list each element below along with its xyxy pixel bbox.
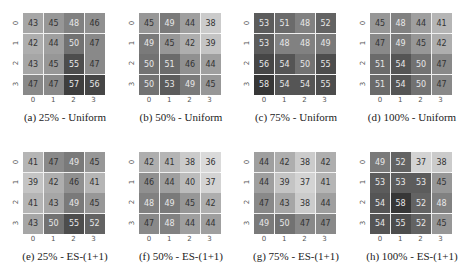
heatmap-grid: 42413836464440374849454247484444 [139, 152, 220, 233]
heatmap-cell: 49 [160, 13, 180, 33]
heatmap-cell: 44 [201, 54, 221, 74]
heatmap-cell: 47 [139, 214, 159, 234]
heatmap-cell: 58 [391, 193, 411, 213]
x-tick-label: 0 [370, 235, 390, 243]
heatmap-cell: 37 [411, 152, 431, 172]
heatmap-cell: 51 [370, 54, 390, 74]
heatmap-cell: 56 [254, 54, 274, 74]
x-tick-label: 1 [390, 96, 410, 104]
x-tick-label: 1 [274, 96, 294, 104]
y-tick-label: 0 [6, 19, 26, 27]
heatmap-cell: 42 [432, 34, 452, 54]
y-tick-label: 3 [6, 80, 26, 88]
heatmap-cell: 43 [44, 193, 64, 213]
heatmap-cell: 38 [295, 193, 315, 213]
heatmap-cell: 54 [275, 54, 295, 74]
x-tick-label: 3 [431, 235, 451, 243]
x-tick-label: 3 [84, 235, 104, 243]
y-tick-label: 2 [353, 198, 373, 206]
heatmap-cell: 44 [411, 13, 431, 33]
x-tick-label: 2 [179, 235, 199, 243]
heatmap-cell: 45 [44, 13, 64, 33]
heatmap-cell: 47 [85, 54, 105, 74]
heatmap-cell: 39 [23, 173, 43, 193]
heatmap-cell: 47 [370, 34, 390, 54]
heatmap-cell: 48 [275, 34, 295, 54]
heatmap-cell: 55 [316, 54, 336, 74]
heatmap-cell: 45 [432, 214, 452, 234]
y-tick-label: 0 [353, 19, 373, 27]
y-tick-label: 3 [122, 219, 142, 227]
heatmap-cell: 48 [432, 193, 452, 213]
heatmap-cell: 42 [180, 34, 200, 54]
heatmap-cell: 51 [370, 75, 390, 95]
heatmap-grid: 41474945394246414143494543505552 [23, 152, 104, 233]
heatmap-cell: 45 [370, 13, 390, 33]
heatmap-panel-c: 5351485253484849565450555854545501230123… [241, 13, 351, 148]
y-tick-label: 3 [122, 80, 142, 88]
heatmap-cell: 40 [180, 173, 200, 193]
x-tick-label: 0 [139, 235, 159, 243]
y-tick-label: 1 [122, 178, 142, 186]
heatmap-cell: 50 [44, 214, 64, 234]
y-tick-label: 1 [237, 178, 257, 186]
heatmap-cell: 57 [64, 75, 84, 95]
y-tick-label: 1 [6, 39, 26, 47]
heatmap-cell: 45 [44, 54, 64, 74]
heatmap-cell: 47 [316, 214, 336, 234]
subfigure-caption: (g) 75% - ES-(1+1) [241, 250, 351, 262]
heatmap-grid: 53514852534848495654505558545455 [254, 13, 335, 94]
subfigure-caption: (b) 50% - Uniform [126, 111, 236, 123]
heatmap-panel-e: 4147494539424641414349454350555201230123… [10, 152, 120, 279]
subfigure-caption: (c) 75% - Uniform [241, 111, 351, 123]
x-tick-label: 2 [410, 235, 430, 243]
heatmap-cell: 43 [23, 13, 43, 33]
heatmap-cell: 49 [254, 214, 274, 234]
heatmap-cell: 41 [316, 173, 336, 193]
y-tick-label: 3 [353, 80, 373, 88]
x-tick-label: 1 [390, 235, 410, 243]
heatmap-cell: 41 [23, 152, 43, 172]
heatmap-grid: 49523738535353455458524854555245 [370, 152, 451, 233]
heatmap-panel-g: 4442384244393741474338444950474701230123… [241, 152, 351, 279]
heatmap-cell: 48 [160, 214, 180, 234]
heatmap-cell: 53 [254, 34, 274, 54]
heatmap-grid: 44423842443937414743384449504747 [254, 152, 335, 233]
heatmap-cell: 46 [139, 173, 159, 193]
heatmap-cell: 43 [275, 193, 295, 213]
y-tick-label: 2 [122, 198, 142, 206]
heatmap-cell: 44 [180, 13, 200, 33]
x-tick-label: 2 [179, 96, 199, 104]
heatmap-cell: 54 [391, 75, 411, 95]
heatmap-cell: 41 [160, 152, 180, 172]
subfigure-caption: (a) 25% - Uniform [10, 111, 120, 123]
heatmap-cell: 52 [411, 214, 431, 234]
y-tick-label: 0 [237, 19, 257, 27]
y-tick-label: 2 [237, 198, 257, 206]
heatmap-cell: 55 [316, 75, 336, 95]
heatmap-cell: 49 [391, 34, 411, 54]
heatmap-cell: 45 [411, 34, 431, 54]
heatmap-cell: 53 [391, 173, 411, 193]
x-tick-label: 0 [23, 235, 43, 243]
y-tick-label: 0 [122, 158, 142, 166]
heatmap-cell: 39 [201, 34, 221, 54]
heatmap-cell: 51 [275, 13, 295, 33]
x-tick-label: 3 [84, 96, 104, 104]
heatmap-cell: 46 [64, 173, 84, 193]
heatmap-cell: 49 [316, 34, 336, 54]
heatmap-cell: 36 [201, 152, 221, 172]
heatmap-cell: 44 [160, 173, 180, 193]
heatmap-cell: 48 [139, 193, 159, 213]
heatmap-cell: 45 [180, 193, 200, 213]
heatmap-cell: 52 [85, 214, 105, 234]
heatmap-cell: 48 [295, 13, 315, 33]
heatmap-cell: 55 [391, 214, 411, 234]
heatmap-cell: 45 [85, 152, 105, 172]
heatmap-panel-h: 4952373853535345545852485455524501230123… [357, 152, 463, 279]
heatmap-cell: 38 [295, 152, 315, 172]
heatmap-panel-a: 4345484642445047434555474747575601230123… [10, 13, 120, 148]
heatmap-cell: 47 [432, 54, 452, 74]
y-tick-label: 1 [353, 39, 373, 47]
heatmap-cell: 50 [275, 214, 295, 234]
